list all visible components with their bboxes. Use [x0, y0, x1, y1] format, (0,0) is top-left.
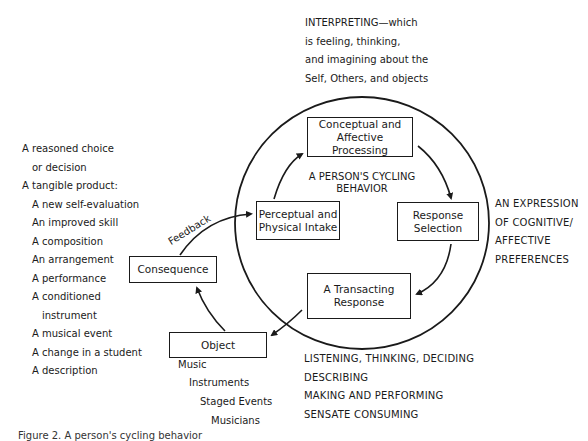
annotation-line: is feeling, thinking, [305, 33, 428, 52]
node-perceptual-physical-intake: Perceptual and Physical Intake [256, 201, 340, 240]
annotation-line: SENSATE CONSUMING [304, 406, 474, 425]
node-label-line: Response [413, 209, 463, 222]
annotation-line: Self, Others, and objects [305, 70, 428, 89]
node-label-line: Selection [413, 222, 463, 235]
consequence-example: A tangible product: [22, 177, 142, 196]
object-example: Instruments [189, 374, 249, 393]
figure-caption: Figure 2. A person's cycling behavior [18, 430, 202, 441]
annotation-line: OF COGNITIVE/ [495, 214, 579, 233]
node-transacting-response: A Transacting Response [307, 273, 411, 319]
annotation-line: PREFERENCES [495, 251, 579, 270]
consequence-example: A performance [22, 270, 142, 289]
node-object: Object [169, 332, 267, 358]
node-label: Consequence [137, 263, 208, 276]
arrow-conceptual-to-selection [418, 146, 451, 198]
node-label-line: A Transacting [324, 283, 395, 296]
consequence-example: A musical event [22, 325, 142, 344]
annotation-line: DESCRIBING [304, 369, 474, 388]
consequence-example: A conditioned [22, 288, 142, 307]
node-label-line: Affective [319, 131, 402, 144]
node-label-line: Conceptual and [319, 118, 402, 131]
center-title-line: A PERSON'S CYCLING [305, 171, 419, 183]
expression-annotation: AN EXPRESSION OF COGNITIVE/ AFFECTIVE PR… [495, 195, 579, 269]
node-response-selection: Response Selection [397, 202, 479, 241]
arrow-selection-to-transacting [417, 244, 451, 294]
consequence-example: An improved skill [22, 214, 142, 233]
node-label-line: Physical Intake [259, 221, 338, 234]
consequence-examples: A reasoned choice or decision A tangible… [22, 140, 142, 381]
object-example: Musicians [211, 412, 260, 431]
node-label-line: Response [324, 296, 395, 309]
arrow-object-to-consequence [197, 288, 225, 331]
node-consequence: Consequence [129, 256, 217, 283]
consequence-example: A new self-evaluation [22, 196, 142, 215]
consequence-example: An arrangement [22, 251, 142, 270]
node-label-line: Perceptual and [259, 208, 338, 221]
interpreting-annotation: INTERPRETING—which is feeling, thinking,… [305, 14, 428, 88]
annotation-line: and imagining about the [305, 51, 428, 70]
node-label-line: Processing [319, 144, 402, 157]
object-example: Staged Events [200, 393, 272, 412]
consequence-example: A reasoned choice [22, 140, 142, 159]
object-example: Music [178, 356, 206, 375]
node-conceptual-affective-processing: Conceptual and Affective Processing [307, 117, 413, 157]
consequence-example: instrument [22, 307, 142, 326]
arrow-perceptual-to-conceptual [274, 154, 302, 199]
node-label: Object [201, 339, 235, 352]
consequence-example: A description [22, 362, 142, 381]
transacting-modes-annotation: LISTENING, THINKING, DECIDING DESCRIBING… [304, 350, 474, 424]
annotation-line: LISTENING, THINKING, DECIDING [304, 350, 474, 369]
annotation-line: AN EXPRESSION [495, 195, 579, 214]
annotation-line: AFFECTIVE [495, 232, 579, 251]
consequence-example: or decision [22, 159, 142, 178]
center-title: A PERSON'S CYCLING BEHAVIOR [305, 171, 419, 195]
consequence-example: A change in a student [22, 344, 142, 363]
consequence-example: A composition [22, 233, 142, 252]
center-title-line: BEHAVIOR [305, 183, 419, 195]
annotation-line: INTERPRETING—which [305, 14, 428, 33]
annotation-line: MAKING AND PERFORMING [304, 387, 474, 406]
